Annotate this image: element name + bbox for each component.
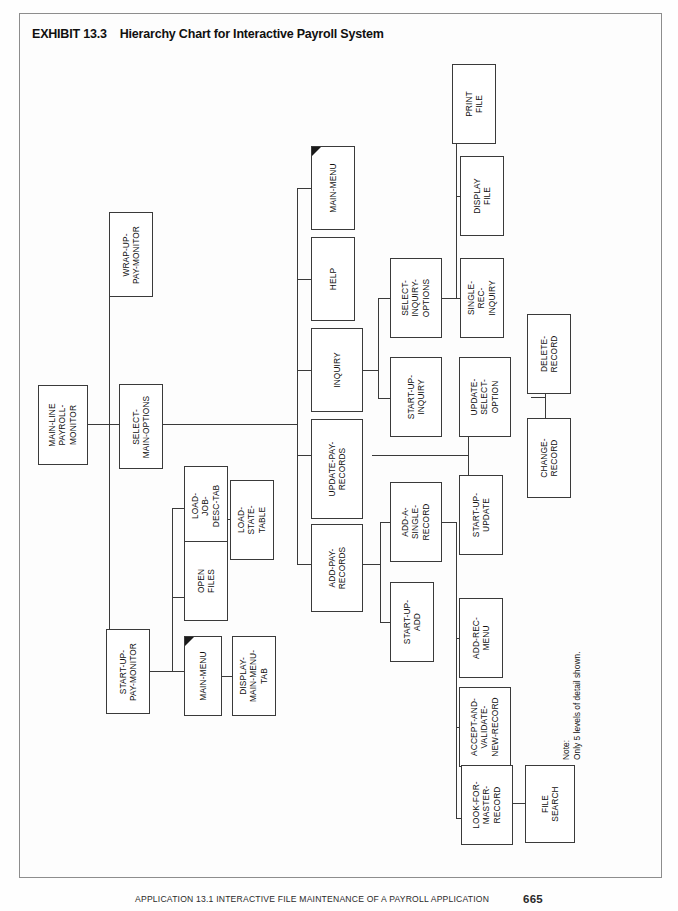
connector: [380, 522, 390, 523]
node-accept-and-validate-new-record[interactable]: ACCEPT-AND- VALIDATE- NEW-RECORD: [459, 687, 511, 767]
connector: [297, 370, 311, 371]
node-start-up-pay-monitor[interactable]: START-UP- PAY-MONITOR: [106, 629, 150, 714]
node-add-pay-records[interactable]: ADD-PAY- RECORDS: [311, 524, 363, 612]
node-main-line-payroll-monitor[interactable]: MAIN-LINE PAYROLL- MONITOR: [38, 385, 88, 465]
node-label: UPDATE-PAY- RECORDS: [327, 442, 348, 497]
node-display-file[interactable]: DISPLAY FILE: [460, 156, 504, 236]
connector: [297, 564, 311, 565]
node-label: START-UP- INQUIRY: [406, 375, 427, 419]
node-update-pay-records[interactable]: UPDATE-PAY- RECORDS: [311, 419, 363, 519]
node-label: START-UP- PAY-MONITOR: [118, 642, 139, 700]
connector: [378, 298, 379, 398]
node-load-job-desc-tab[interactable]: LOAD- JOB- DESC-TAB: [184, 466, 228, 546]
node-label: PRINT FILE: [464, 91, 485, 117]
node-file-search[interactable]: FILE SEARCH: [525, 765, 575, 843]
node-start-up-add[interactable]: START-UP- ADD: [390, 582, 434, 662]
node-single-rec-inquiry[interactable]: SINGLE- REC- INQUIRY: [460, 258, 504, 338]
node-label: MAIN-LINE PAYROLL- MONITOR: [47, 403, 78, 446]
node-help[interactable]: HELP: [311, 237, 355, 321]
node-add-a-single-record[interactable]: ADD-A- SINGLE- RECORD: [390, 482, 442, 562]
node-label: WRAP-UP- PAY-MONITOR: [121, 225, 142, 283]
node-label: LOOK-FOR- MASTER- RECORD: [471, 781, 502, 828]
node-label: ADD-A- SINGLE- RECORD: [400, 504, 431, 541]
node-label: LOAD- STATE- TABLE: [236, 505, 267, 534]
node-look-for-master-record[interactable]: LOOK-FOR- MASTER- RECORD: [461, 765, 513, 845]
node-wrap-up-pay-monitor[interactable]: WRAP-UP- PAY-MONITOR: [109, 212, 153, 297]
node-start-up-inquiry[interactable]: START-UP- INQUIRY: [390, 357, 442, 437]
node-display-main-menu-tab[interactable]: DISPLAY- MAIN-MENU- TAB: [232, 636, 276, 716]
connector: [297, 188, 298, 564]
connector: [442, 522, 456, 523]
node-change-record[interactable]: CHANGE- RECORD: [527, 418, 571, 498]
node-label: FILE SEARCH: [540, 786, 561, 822]
node-label: LOAD- JOB- DESC-TAB: [190, 485, 221, 528]
connector: [150, 671, 172, 672]
node-label: OPEN FILES: [196, 569, 217, 593]
connector: [372, 455, 468, 456]
node-select-main-options[interactable]: SELECT- MAIN-OPTIONS: [119, 384, 163, 469]
connector: [172, 508, 184, 509]
node-load-state-table[interactable]: LOAD- STATE- TABLE: [230, 480, 274, 560]
connector: [297, 455, 311, 456]
node-label: DELETE- RECORD: [539, 336, 560, 373]
node-label: MAIN-MENU: [328, 163, 338, 212]
connector: [172, 671, 184, 672]
connector: [442, 298, 456, 299]
connector: [378, 298, 390, 299]
node-open-files[interactable]: OPEN FILES: [184, 541, 228, 621]
connector: [297, 188, 311, 189]
node-update-select-option[interactable]: UPDATE- SELECT- OPTION: [459, 357, 511, 437]
node-main-menu-select[interactable]: MAIN-MENU: [311, 146, 355, 230]
hierarchy-chart: MAIN-LINE PAYROLL- MONITOR WRAP-UP- PAY-…: [0, 0, 678, 911]
node-add-rec-menu[interactable]: ADD-REC- MENU: [459, 598, 503, 678]
connector: [363, 564, 380, 565]
node-label: ACCEPT-AND- VALIDATE- NEW-RECORD: [469, 697, 500, 756]
page-footer: APPLICATION 13.1 INTERACTIVE FILE MAINTE…: [0, 893, 678, 905]
node-label: ADD-PAY- RECORDS: [327, 547, 348, 590]
node-main-menu-startup[interactable]: MAIN-MENU: [184, 636, 222, 716]
node-label: DISPLAY FILE: [472, 178, 493, 213]
node-label: START-UP- ADD: [402, 600, 423, 644]
node-label: START-UP- UPDATE: [471, 493, 492, 537]
connector: [163, 424, 297, 425]
node-delete-record[interactable]: DELETE- RECORD: [527, 314, 571, 394]
connector: [88, 424, 109, 425]
node-label: SELECT- MAIN-OPTIONS: [131, 395, 152, 458]
node-print-file[interactable]: PRINT FILE: [452, 64, 496, 144]
connector: [363, 370, 378, 371]
connector: [172, 597, 184, 598]
node-label: CHANGE- RECORD: [539, 438, 560, 477]
node-start-up-update[interactable]: START-UP- UPDATE: [459, 475, 503, 555]
connector: [531, 397, 545, 398]
node-label: ADD-REC- MENU: [471, 617, 492, 659]
footer-text: APPLICATION 13.1 INTERACTIVE FILE MAINTE…: [135, 894, 489, 904]
page-number: 665: [523, 893, 543, 905]
node-label: MAIN-MENU: [198, 651, 208, 700]
node-label: HELP: [328, 268, 338, 290]
node-inquiry[interactable]: INQUIRY: [311, 328, 363, 412]
node-label: UPDATE- SELECT- OPTION: [469, 379, 500, 416]
connector: [172, 508, 173, 671]
node-select-inquiry-options[interactable]: SELECT- INQUIRY- OPTIONS: [390, 258, 442, 338]
node-label: DISPLAY- MAIN-MENU- TAB: [238, 650, 269, 702]
connector: [513, 803, 525, 804]
connector: [380, 522, 381, 622]
node-label: SELECT- INQUIRY- OPTIONS: [400, 279, 431, 317]
connector: [378, 398, 390, 399]
connector: [297, 279, 311, 280]
connector: [456, 522, 457, 818]
connector: [380, 622, 390, 623]
chart-note: Note: Only 5 levels of detail shown.: [561, 652, 583, 760]
connector: [109, 247, 110, 672]
node-label: INQUIRY: [332, 352, 342, 387]
node-label: SINGLE- REC- INQUIRY: [466, 280, 497, 315]
